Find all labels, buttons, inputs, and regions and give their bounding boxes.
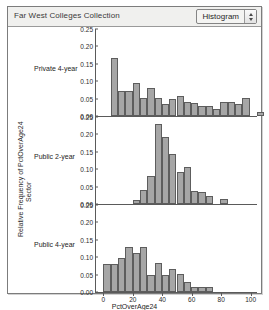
y-tick-label: 0.05 [64, 95, 95, 102]
y-tick-label: 0.20 [64, 219, 95, 226]
plot-area: Relative Frequency of PctOverAge24 Secto… [8, 27, 261, 293]
histogram-bar[interactable] [140, 190, 147, 204]
histogram-bar[interactable] [147, 88, 154, 116]
collection-title: Far West Colleges Collection [14, 11, 120, 20]
histogram-bar[interactable] [191, 191, 198, 204]
histogram-bar[interactable] [198, 287, 205, 292]
y-tick-label: 0.05 [64, 183, 95, 190]
plot-type-stepper[interactable] [244, 10, 256, 23]
triangle-up-icon [249, 13, 253, 16]
y-tick-label: 0.15 [64, 60, 95, 67]
y-tick-label: 0.25 [64, 202, 95, 209]
histogram-panel: Private 4-year0.250.200.150.100.050.00 [64, 29, 257, 117]
histogram-bar[interactable] [184, 167, 191, 204]
x-tick-label: 80 [218, 296, 225, 303]
bar-group [96, 29, 257, 116]
x-tick-label: 100 [245, 296, 256, 303]
histogram-bar[interactable] [184, 102, 191, 116]
histogram-bar[interactable] [140, 247, 147, 292]
histogram-bar[interactable] [169, 269, 176, 292]
histogram-bar[interactable] [133, 253, 140, 292]
window-titlebar: Far West Colleges Collection Histogram [8, 7, 261, 27]
histogram-bar[interactable] [206, 196, 213, 204]
histogram-bar[interactable] [133, 83, 140, 116]
y-tick-label: 0.10 [64, 166, 95, 173]
histogram-bar[interactable] [198, 192, 205, 204]
histogram-bar[interactable] [169, 154, 176, 204]
triangle-down-icon [249, 18, 253, 21]
histogram-bar[interactable] [125, 247, 132, 292]
histogram-bar[interactable] [228, 102, 235, 116]
histogram-bar[interactable] [206, 106, 213, 116]
y-tick-label: 0.05 [64, 271, 95, 278]
y-tick-label: 0.10 [64, 254, 95, 261]
histogram-bar[interactable] [140, 98, 147, 116]
histogram-bar[interactable] [111, 264, 118, 292]
histogram-bar[interactable] [125, 91, 132, 116]
histogram-bar[interactable] [147, 176, 154, 204]
y-tick-label: 0.25 [64, 114, 95, 121]
bar-group [96, 205, 257, 292]
histogram-bar[interactable] [118, 91, 125, 116]
x-tick-label: 40 [159, 296, 166, 303]
histogram-bar[interactable] [118, 258, 125, 292]
histogram-bar[interactable] [191, 103, 198, 116]
histogram-bar[interactable] [213, 109, 220, 116]
histogram-bar[interactable] [111, 58, 118, 116]
histogram-bar[interactable] [177, 274, 184, 292]
histogram-panel: Public 2-year0.250.200.150.100.050.00 [64, 117, 257, 205]
histogram-bar[interactable] [177, 96, 184, 116]
histogram-bar[interactable] [155, 124, 162, 204]
y-tick-label: 0.00 [64, 289, 95, 296]
histogram-bar[interactable] [191, 287, 198, 292]
histogram-bar[interactable] [162, 104, 169, 116]
plot-type-popup[interactable]: Histogram [196, 9, 257, 24]
histogram-bar[interactable] [155, 98, 162, 116]
histogram-window: Far West Colleges Collection Histogram R… [7, 6, 262, 294]
histogram-bar[interactable] [184, 282, 191, 292]
x-tick-label: 60 [188, 296, 195, 303]
histogram-bar[interactable] [169, 99, 176, 116]
histogram-bar[interactable] [257, 112, 264, 116]
x-axis: 020406080100 [95, 293, 257, 303]
histogram-bar[interactable] [198, 106, 205, 116]
x-tick-label: 0 [102, 296, 106, 303]
histogram-bar[interactable] [235, 104, 242, 116]
histogram-bar[interactable] [220, 199, 227, 205]
histogram-bar[interactable] [155, 263, 162, 292]
histogram-bar[interactable] [133, 200, 140, 204]
y-tick-label: 0.25 [64, 26, 95, 33]
bar-group [96, 117, 257, 204]
y-tick-label: 0.15 [64, 236, 95, 243]
y-axis-title: Relative Frequency of PctOverAge24 [17, 121, 24, 237]
plot-type-label: Histogram [197, 10, 244, 23]
y-tick-label: 0.10 [64, 78, 95, 85]
histogram-bar[interactable] [177, 172, 184, 204]
histogram-bar[interactable] [162, 137, 169, 204]
y-tick-label: 0.20 [64, 43, 95, 50]
y-tick-label: 0.20 [64, 131, 95, 138]
histogram-panel: Public 4-year0.250.200.150.100.050.00 [64, 205, 257, 293]
x-axis-title: PctOverAge24 [8, 303, 261, 310]
histogram-bar[interactable] [206, 287, 213, 292]
histogram-bar[interactable] [103, 264, 110, 292]
x-tick-label: 20 [129, 296, 136, 303]
histogram-bar[interactable] [242, 98, 249, 116]
histogram-bar[interactable] [147, 275, 154, 292]
histogram-bar[interactable] [220, 102, 227, 116]
y-tick-label: 0.15 [64, 148, 95, 155]
group-axis-label: Sector [25, 182, 32, 202]
histogram-bar[interactable] [162, 275, 169, 292]
